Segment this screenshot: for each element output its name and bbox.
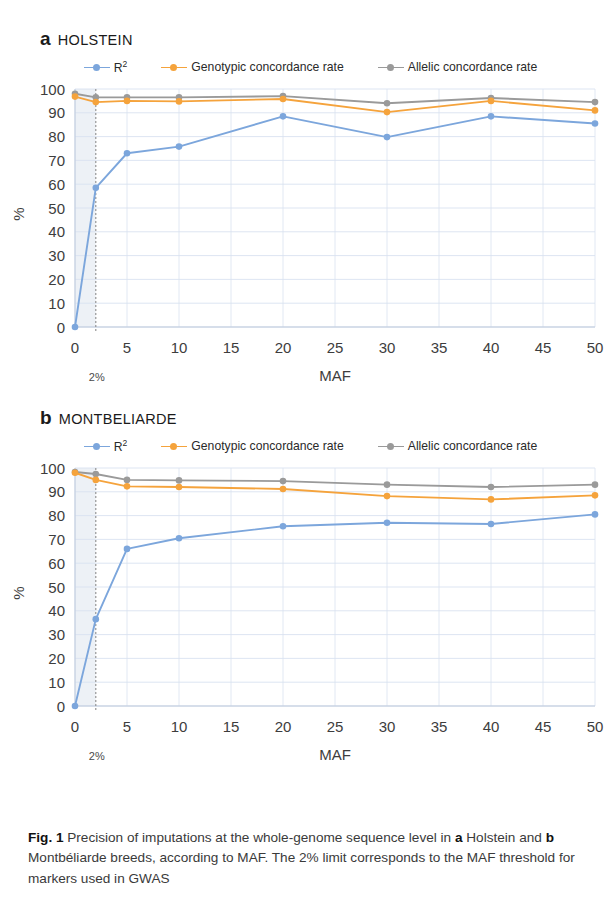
data-point-r2: [72, 324, 79, 331]
data-point-r2: [488, 113, 495, 120]
caption-bold-b: b: [546, 830, 554, 845]
y-axis-tick-label: 90: [48, 483, 65, 500]
data-point-r2: [176, 535, 183, 542]
y-axis-tick-label: 60: [48, 555, 65, 572]
y-axis-tick-label: 50: [48, 200, 65, 217]
data-point-genotypic: [124, 98, 131, 105]
data-point-genotypic: [176, 484, 183, 491]
legend-item-allelic: Allelic concordance rate: [378, 60, 537, 74]
x-axis-tick-label: 30: [379, 718, 396, 735]
data-point-genotypic: [592, 107, 599, 114]
chart-holstein-svg: 0102030405060708090100051015202530354045…: [0, 77, 607, 387]
caption-text-1: Precision of imputations at the whole-ge…: [64, 830, 455, 845]
legend-swatch-genotypic-icon: [161, 441, 187, 451]
data-point-allelic: [280, 478, 287, 485]
chart-montbeliarde-svg: 0102030405060708090100051015202530354045…: [0, 456, 607, 766]
data-point-r2: [72, 703, 79, 710]
data-point-genotypic: [384, 109, 391, 116]
data-point-allelic: [592, 99, 599, 106]
data-point-allelic: [124, 477, 131, 484]
y-axis-tick-label: 30: [48, 626, 65, 643]
x-axis-tick-label: 0: [71, 718, 79, 735]
data-point-r2: [93, 185, 100, 192]
data-point-genotypic: [93, 99, 100, 106]
y-axis-tick-label: 50: [48, 579, 65, 596]
data-point-r2: [124, 150, 131, 157]
chart-holstein: 0102030405060708090100051015202530354045…: [0, 77, 607, 387]
chart-montbeliarde: 0102030405060708090100051015202530354045…: [0, 456, 607, 766]
x-axis-tick-label: 10: [171, 718, 188, 735]
x-axis-tick-label: 45: [535, 718, 552, 735]
x-axis-tick-label: 30: [379, 339, 396, 356]
y-axis-tick-label: 90: [48, 104, 65, 121]
figure-page: a HOLSTEIN R2 Genotypic concordance rate: [0, 0, 607, 899]
data-point-genotypic: [176, 98, 183, 105]
caption-figure-number: Fig. 1: [28, 830, 64, 845]
legend-swatch-allelic-icon: [378, 441, 404, 451]
panel-montbeliarde: b MONTBELIARDE R2 Genotypic concordance …: [0, 387, 607, 766]
data-point-r2: [592, 511, 599, 518]
data-point-allelic: [176, 477, 183, 484]
y-axis-tick-label: 0: [57, 319, 65, 336]
y-axis-title: %: [10, 586, 27, 599]
panel-b-name: MONTBELIARDE: [59, 411, 177, 427]
x-axis-tick-label: 50: [587, 718, 604, 735]
x-axis-tick-label: 0: [71, 339, 79, 356]
legend-item-r2: R2: [84, 59, 128, 75]
y-axis-tick-label: 40: [48, 602, 65, 619]
legend-label-r2: R2: [114, 438, 128, 454]
legend-panel-b: R2 Genotypic concordance rate Allelic co…: [0, 438, 607, 454]
y-axis-tick-label: 70: [48, 531, 65, 548]
legend-label-r2: R2: [114, 59, 128, 75]
data-point-allelic: [384, 481, 391, 488]
y-axis-tick-label: 80: [48, 128, 65, 145]
data-point-r2: [176, 143, 183, 150]
legend-swatch-r2-icon: [84, 441, 110, 451]
panel-a-name: HOLSTEIN: [58, 32, 133, 48]
data-point-r2: [124, 546, 131, 553]
x-axis-tick-label: 20: [275, 718, 292, 735]
data-point-genotypic: [124, 483, 131, 490]
data-point-genotypic: [592, 492, 599, 499]
legend-item-r2: R2: [84, 438, 128, 454]
x-axis-tick-label: 35: [431, 718, 448, 735]
data-point-r2: [488, 521, 495, 528]
panel-b-title: b MONTBELIARDE: [0, 407, 607, 429]
figure-caption: Fig. 1 Precision of imputations at the w…: [28, 828, 589, 889]
caption-bold-a: a: [455, 830, 463, 845]
x-axis-tick-label: 40: [483, 718, 500, 735]
x-axis-tick-label: 45: [535, 339, 552, 356]
x-axis-title: MAF: [319, 746, 351, 763]
legend-panel-a: R2 Genotypic concordance rate Allelic co…: [0, 59, 607, 75]
data-point-allelic: [488, 484, 495, 491]
y-axis-tick-label: 80: [48, 507, 65, 524]
y-axis-tick-label: 30: [48, 247, 65, 264]
y-axis-tick-label: 70: [48, 152, 65, 169]
caption-text-3: Montbéliarde breeds, according to MAF. T…: [28, 850, 575, 885]
legend-swatch-r2-icon: [84, 62, 110, 72]
x-axis-tick-label: 20: [275, 339, 292, 356]
panel-a-letter: a: [40, 28, 51, 50]
data-point-genotypic: [280, 486, 287, 493]
data-point-genotypic: [72, 470, 79, 477]
x-axis-tick-label: 25: [327, 339, 344, 356]
x-axis-tick-label: 5: [123, 339, 131, 356]
data-point-r2: [280, 113, 287, 120]
x-axis-title: MAF: [319, 367, 351, 384]
data-point-r2: [93, 616, 100, 623]
legend-swatch-allelic-icon: [378, 62, 404, 72]
data-point-genotypic: [488, 496, 495, 503]
y-axis-tick-label: 10: [48, 295, 65, 312]
panel-b-letter: b: [40, 407, 52, 429]
threshold-annotation-2pct: 2%: [89, 750, 105, 762]
data-point-r2: [280, 523, 287, 530]
y-axis-tick-label: 60: [48, 176, 65, 193]
x-axis-tick-label: 40: [483, 339, 500, 356]
legend-label-allelic: Allelic concordance rate: [408, 439, 537, 453]
x-axis-tick-label: 10: [171, 339, 188, 356]
data-point-r2: [384, 134, 391, 141]
y-axis-tick-label: 40: [48, 223, 65, 240]
x-axis-tick-label: 5: [123, 718, 131, 735]
data-point-r2: [592, 120, 599, 127]
data-point-allelic: [93, 471, 100, 478]
